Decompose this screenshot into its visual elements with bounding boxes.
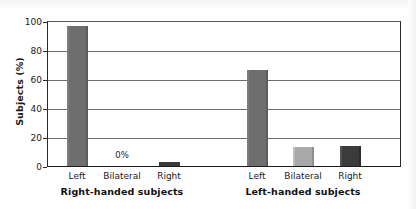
y-tick-mark-0	[43, 167, 47, 168]
group-title-right-handed: Right-handed subjects	[61, 186, 184, 197]
y-tick-label-0: 0	[14, 162, 42, 172]
gridline-80	[48, 51, 400, 52]
y-tick-label-20: 20	[14, 133, 42, 143]
bar-right-handed-left	[67, 26, 88, 166]
bar-annotation-zero-percent: 0%	[115, 150, 129, 160]
y-tick-label-80: 80	[14, 46, 42, 56]
scan-artifact-right	[408, 0, 416, 209]
y-tick-label-60: 60	[14, 75, 42, 85]
x-label-left-handed-left: Left	[249, 171, 266, 181]
gridline-60	[48, 80, 400, 81]
y-tick-label-100: 100	[14, 17, 42, 27]
bar-right-handed-right	[159, 162, 180, 166]
bar-chart: Subjects (%) 0 20 40 60 80 100 0% Left B…	[0, 0, 416, 209]
bar-left-handed-right	[340, 146, 361, 166]
bar-left-handed-left	[247, 70, 268, 166]
x-label-left-handed-bilateral: Bilateral	[284, 171, 321, 181]
bar-left-handed-bilateral	[293, 147, 314, 166]
x-label-left-handed-right: Right	[338, 171, 362, 181]
scan-artifact-top	[0, 0, 416, 10]
x-label-right-handed-bilateral: Bilateral	[103, 171, 140, 181]
x-label-right-handed-right: Right	[157, 171, 181, 181]
group-title-left-handed: Left-handed subjects	[245, 186, 360, 197]
x-label-right-handed-left: Left	[69, 171, 86, 181]
gridline-20	[48, 138, 400, 139]
gridline-40	[48, 109, 400, 110]
plot-area	[47, 21, 401, 167]
y-tick-label-40: 40	[14, 104, 42, 114]
